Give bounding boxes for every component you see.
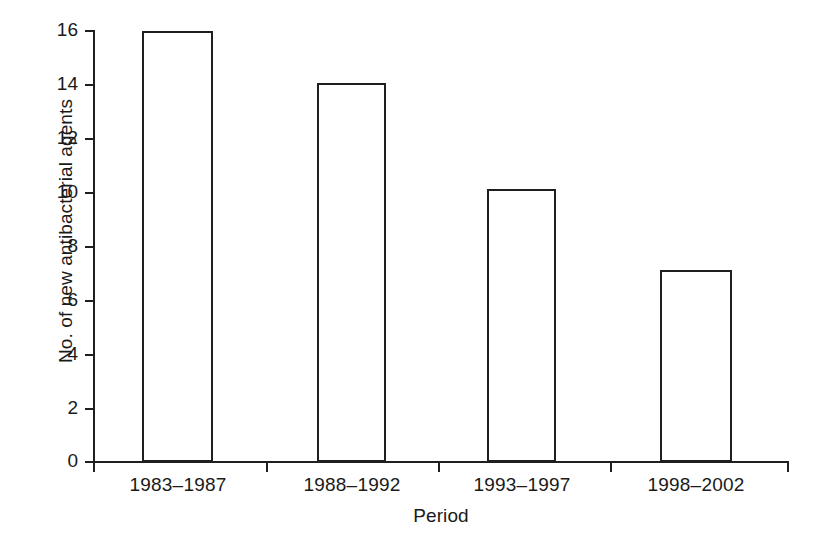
- bar-1993-1997: [487, 189, 556, 462]
- y-tick-label-10: 10: [30, 182, 78, 201]
- y-tick-label-0: 0: [30, 451, 78, 470]
- y-tick-label-2: 2: [30, 398, 78, 417]
- bar-1983-1987: [142, 31, 213, 462]
- bar-chart: No. of new antibacterial agents 16 14 12…: [0, 0, 824, 549]
- bar-1988-1992: [317, 83, 386, 462]
- y-tick-6: [85, 300, 94, 302]
- y-tick-4: [85, 354, 94, 356]
- y-tick-16: [85, 30, 94, 32]
- x-tick-boundary-2: [438, 461, 440, 472]
- y-tick-label-6-wrap: 6: [30, 290, 78, 310]
- y-tick-label-6: 6: [30, 290, 78, 309]
- y-tick-label-14-wrap: 14: [30, 74, 78, 94]
- x-tick-label-1: 1988–1992: [272, 473, 432, 497]
- x-axis-title: Period: [94, 505, 788, 527]
- bar-1998-2002: [660, 270, 732, 462]
- y-tick-label-2-wrap: 2: [30, 398, 78, 418]
- y-tick-label-0-wrap: 0: [30, 451, 78, 471]
- y-tick-10: [85, 192, 94, 194]
- x-tick-boundary-3: [610, 461, 612, 472]
- y-tick-label-8-wrap: 8: [30, 236, 78, 256]
- y-tick-14: [85, 84, 94, 86]
- y-tick-label-12: 12: [30, 128, 78, 147]
- x-tick-boundary-0: [93, 461, 95, 472]
- y-tick-label-10-wrap: 10: [30, 182, 78, 202]
- y-tick-label-16-wrap: 16: [30, 20, 78, 40]
- y-tick-label-4: 4: [30, 344, 78, 363]
- y-axis-title: No. of new antibacterial agents: [46, 0, 86, 466]
- y-tick-label-14: 14: [30, 74, 78, 93]
- x-tick-boundary-1: [266, 461, 268, 472]
- y-tick-8: [85, 246, 94, 248]
- x-tick-label-0: 1983–1987: [98, 473, 258, 497]
- y-tick-2: [85, 408, 94, 410]
- y-tick-label-12-wrap: 12: [30, 128, 78, 148]
- x-tick-boundary-4: [787, 461, 789, 472]
- y-tick-12: [85, 138, 94, 140]
- y-tick-label-8: 8: [30, 236, 78, 255]
- y-tick-label-16: 16: [30, 20, 78, 39]
- y-tick-label-4-wrap: 4: [30, 344, 78, 364]
- x-tick-label-3: 1998–2002: [616, 473, 776, 497]
- x-tick-label-2: 1993–1997: [442, 473, 602, 497]
